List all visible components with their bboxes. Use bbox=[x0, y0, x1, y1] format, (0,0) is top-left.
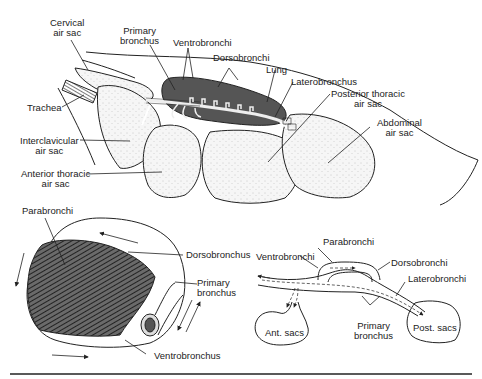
label-ventrobronchi-top: Ventrobronchi bbox=[173, 38, 232, 48]
label-line: air sac bbox=[21, 179, 90, 189]
label-line: bronchus bbox=[354, 331, 393, 341]
label-line: air sac bbox=[377, 128, 422, 138]
label-laterobronchus: Laterobronchus bbox=[291, 77, 357, 87]
label-parabronchi-left: Parabronchi bbox=[22, 206, 73, 216]
label-ant-sacs: Ant. sacs bbox=[265, 328, 304, 338]
label-primary-bronchus-right: Primary bronchus bbox=[354, 321, 393, 341]
label-post-sacs: Post. sacs bbox=[413, 323, 457, 333]
label-dorsobronchi-right: Dorsobronchi bbox=[391, 258, 448, 268]
label-line: bronchus bbox=[197, 288, 236, 298]
label-posterior-thoracic-air-sac: Posterior thoracic air sac bbox=[331, 89, 405, 109]
label-abdominal-air-sac: Abdominal air sac bbox=[377, 118, 422, 138]
label-laterobronchi: Laterobronchi bbox=[408, 274, 466, 284]
label-trachea: Trachea bbox=[27, 103, 62, 113]
label-primary-bronchus-left: Primary bronchus bbox=[197, 278, 236, 298]
ant-sacs bbox=[255, 302, 308, 345]
label-anterior-thoracic-air-sac: Anterior thoracic air sac bbox=[21, 169, 90, 189]
label-ventrobronchi-right: Ventrobronchi bbox=[256, 252, 315, 262]
label-primary-bronchus-top: Primary bronchus bbox=[120, 26, 159, 46]
bottom-left-diagram bbox=[16, 218, 200, 357]
label-cervical-air-sac: Cervical air sac bbox=[50, 18, 84, 38]
label-line: bronchus bbox=[120, 36, 159, 46]
label-interclavicular-air-sac: Interclavicular air sac bbox=[20, 136, 79, 156]
label-dorsobronchus: Dorsobronchus bbox=[186, 250, 250, 260]
label-line: air sac bbox=[50, 28, 84, 38]
label-ventrobronchus: Ventrobronchus bbox=[154, 351, 221, 361]
label-lung: Lung bbox=[266, 65, 287, 75]
label-line: air sac bbox=[331, 99, 405, 109]
label-parabronchi-right: Parabronchi bbox=[323, 237, 374, 247]
label-dorsobronchi-top: Dorsobronchi bbox=[213, 53, 270, 63]
anterior-thoracic-air-sac bbox=[143, 125, 201, 197]
label-line: air sac bbox=[20, 146, 79, 156]
